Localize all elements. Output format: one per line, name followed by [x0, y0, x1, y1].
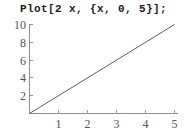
y-tick-label-2: 2 [20, 89, 26, 103]
input-code-line[interactable]: Plot[2 x, {x, 0, 5}]; [20, 1, 180, 18]
y-tick-label-8: 8 [20, 36, 26, 50]
x-tick-label-4: 4 [143, 117, 149, 131]
y-tick-label-10: 10 [14, 18, 26, 32]
plot-graphic[interactable]: 10 8 6 4 2 1 2 3 4 5 [0, 18, 185, 139]
x-tick-label-2: 2 [85, 117, 91, 131]
data-series-line [30, 25, 175, 114]
y-tick-label-6: 6 [20, 54, 26, 68]
x-tick-label-3: 3 [114, 117, 120, 131]
y-tick-label-4: 4 [20, 71, 26, 85]
notebook-output-cell: Plot[2 x, {x, 0, 5}]; 10 8 6 4 [0, 0, 185, 139]
x-tick-label-5: 5 [172, 117, 178, 131]
x-tick-label-1: 1 [56, 117, 62, 131]
plot-svg: 10 8 6 4 2 1 2 3 4 5 [0, 18, 185, 139]
